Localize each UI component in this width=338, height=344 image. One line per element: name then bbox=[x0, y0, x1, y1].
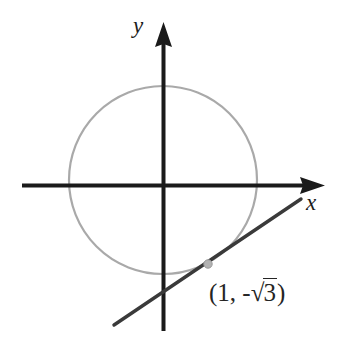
point-coordinate-label: (1, -√3) bbox=[209, 278, 285, 307]
square-root-group: √3 bbox=[251, 278, 277, 307]
tangent-point-marker bbox=[204, 260, 212, 268]
geometry-diagram bbox=[0, 0, 338, 344]
coordinate-separator: , bbox=[230, 279, 243, 306]
radicand-value: 3 bbox=[263, 278, 277, 306]
coordinate-x-value: 1 bbox=[217, 279, 230, 306]
paren-close: ) bbox=[277, 279, 285, 306]
x-axis-label: x bbox=[306, 191, 316, 214]
y-axis-arrowhead-icon bbox=[155, 22, 172, 47]
figure-canvas: y x (1, -√3) bbox=[0, 0, 338, 344]
minus-sign: - bbox=[242, 279, 250, 306]
y-axis-label: y bbox=[133, 14, 143, 37]
